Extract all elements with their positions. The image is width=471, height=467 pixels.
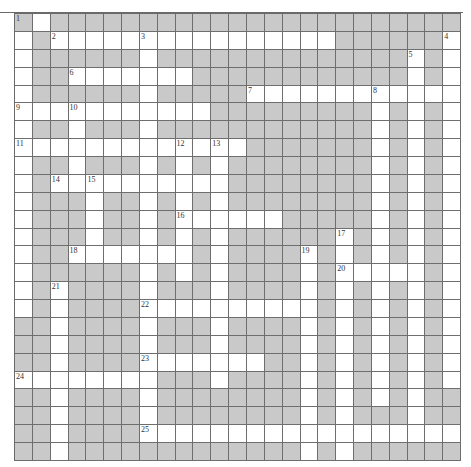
answer-cell[interactable] [158,300,176,318]
answer-cell[interactable] [408,318,426,336]
answer-cell[interactable] [211,175,229,193]
answer-cell[interactable] [229,300,247,318]
answer-cell[interactable] [247,211,265,229]
answer-cell[interactable] [408,407,426,425]
answer-cell[interactable] [15,50,33,68]
answer-cell[interactable] [15,211,33,229]
answer-cell[interactable] [51,103,69,121]
answer-cell[interactable] [122,103,140,121]
answer-cell[interactable] [104,103,122,121]
answer-cell[interactable] [51,354,69,372]
answer-cell[interactable] [265,86,283,104]
answer-cell[interactable]: 8 [372,86,390,104]
answer-cell[interactable] [104,32,122,50]
answer-cell[interactable] [247,300,265,318]
answer-cell[interactable] [158,139,176,157]
answer-cell[interactable] [51,336,69,354]
answer-cell[interactable] [176,68,194,86]
answer-cell[interactable] [140,103,158,121]
answer-cell[interactable] [211,32,229,50]
answer-cell[interactable] [211,157,229,175]
answer-cell[interactable] [443,193,461,211]
answer-cell[interactable] [247,354,265,372]
answer-cell[interactable]: 3 [140,32,158,50]
answer-cell[interactable] [211,211,229,229]
answer-cell[interactable] [51,300,69,318]
answer-cell[interactable] [176,103,194,121]
answer-cell[interactable] [443,157,461,175]
answer-cell[interactable] [443,175,461,193]
answer-cell[interactable] [51,372,69,390]
answer-cell[interactable] [211,282,229,300]
answer-cell[interactable] [443,425,461,443]
answer-cell[interactable] [443,264,461,282]
answer-cell[interactable] [140,193,158,211]
answer-cell[interactable] [86,139,104,157]
answer-cell[interactable] [336,354,354,372]
answer-cell[interactable] [86,193,104,211]
answer-cell[interactable] [443,246,461,264]
answer-cell[interactable] [318,32,336,50]
answer-cell[interactable] [229,211,247,229]
answer-cell[interactable] [318,425,336,443]
answer-cell[interactable] [193,139,211,157]
answer-cell[interactable] [33,14,51,32]
answer-cell[interactable] [176,157,194,175]
answer-cell[interactable] [318,86,336,104]
answer-cell[interactable] [15,193,33,211]
answer-cell[interactable] [301,425,319,443]
answer-cell[interactable] [158,32,176,50]
answer-cell[interactable] [265,32,283,50]
answer-cell[interactable] [443,103,461,121]
answer-cell[interactable] [140,282,158,300]
answer-cell[interactable] [140,246,158,264]
answer-cell[interactable] [372,282,390,300]
answer-cell[interactable] [443,50,461,68]
answer-cell[interactable] [390,264,408,282]
answer-cell[interactable] [193,354,211,372]
answer-cell[interactable] [408,103,426,121]
answer-cell[interactable] [176,193,194,211]
answer-cell[interactable] [443,211,461,229]
answer-cell[interactable] [176,229,194,247]
answer-cell[interactable] [211,193,229,211]
answer-cell[interactable] [104,68,122,86]
answer-cell[interactable] [176,175,194,193]
answer-cell[interactable] [140,318,158,336]
answer-cell[interactable] [283,300,301,318]
answer-cell[interactable] [122,68,140,86]
answer-cell[interactable] [408,264,426,282]
answer-cell[interactable] [86,32,104,50]
answer-cell[interactable] [51,139,69,157]
answer-cell[interactable] [336,300,354,318]
answer-cell[interactable] [15,121,33,139]
answer-cell[interactable] [140,157,158,175]
answer-cell[interactable] [443,336,461,354]
answer-cell[interactable]: 25 [140,425,158,443]
answer-cell[interactable] [158,175,176,193]
answer-cell[interactable] [176,32,194,50]
answer-cell[interactable] [408,193,426,211]
answer-cell[interactable] [301,354,319,372]
answer-cell[interactable] [193,32,211,50]
answer-cell[interactable] [51,443,69,461]
answer-cell[interactable] [140,50,158,68]
answer-cell[interactable] [336,336,354,354]
answer-cell[interactable] [158,425,176,443]
answer-cell[interactable] [211,425,229,443]
answer-cell[interactable] [229,32,247,50]
answer-cell[interactable] [176,264,194,282]
answer-cell[interactable] [283,86,301,104]
answer-cell[interactable] [390,86,408,104]
answer-cell[interactable] [158,246,176,264]
answer-cell[interactable] [33,139,51,157]
answer-cell[interactable] [176,425,194,443]
answer-cell[interactable] [301,336,319,354]
answer-cell[interactable] [336,318,354,336]
answer-cell[interactable] [140,211,158,229]
answer-cell[interactable] [408,300,426,318]
answer-cell[interactable] [140,86,158,104]
answer-cell[interactable] [301,300,319,318]
answer-cell[interactable] [158,68,176,86]
answer-cell[interactable] [265,211,283,229]
